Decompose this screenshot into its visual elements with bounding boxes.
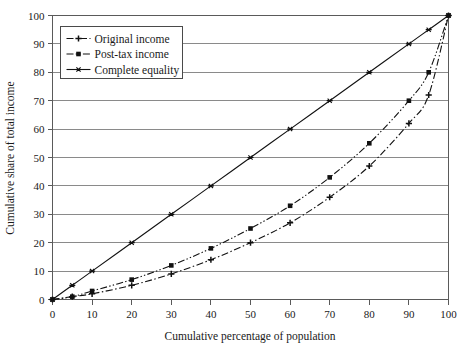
data-point-30: [169, 263, 174, 268]
y-tick-label-10: 10: [34, 265, 46, 277]
x-tick-label-90: 90: [403, 308, 415, 320]
data-point-10: [89, 269, 95, 273]
y-tick-label-0: 0: [39, 294, 45, 306]
x-tick-label-100: 100: [440, 308, 457, 320]
y-tick-label-40: 40: [34, 180, 46, 192]
x-tick-label-70: 70: [324, 308, 336, 320]
data-point-30: [168, 271, 174, 277]
data-point-80: [367, 141, 372, 146]
x-tick-label-20: 20: [126, 308, 138, 320]
legend-label: Post-tax income: [95, 48, 169, 60]
x-tick-label-80: 80: [364, 308, 376, 320]
y-axis-ticks: [48, 16, 53, 300]
y-tick-label-70: 70: [34, 95, 46, 107]
y-tick-label-100: 100: [28, 10, 45, 22]
y-tick-label-90: 90: [34, 38, 46, 50]
x-tick-label-10: 10: [87, 308, 99, 320]
data-point-60: [288, 203, 293, 208]
data-point-95: [426, 70, 431, 75]
x-tick-label-60: 60: [285, 308, 297, 320]
data-point-70: [327, 175, 332, 180]
y-tick-label-20: 20: [34, 237, 46, 249]
data-point-20: [129, 277, 134, 282]
data-point-90: [406, 42, 412, 46]
data-point-70: [327, 99, 333, 103]
data-point-50: [248, 226, 253, 231]
x-axis-tick-labels: 0102030405060708090100: [50, 308, 458, 320]
x-axis-ticks: [53, 300, 449, 305]
data-point-60: [287, 220, 293, 226]
legend-marker-1: [76, 52, 81, 57]
legend-label: Original income: [95, 33, 170, 46]
x-tick-label-40: 40: [205, 308, 217, 320]
legend-label: Complete equality: [95, 64, 180, 77]
lorenz-curve-figure: 0102030405060708090100 01020304050607080…: [0, 0, 467, 350]
data-point-5: [70, 294, 75, 299]
legend: Original incomePost-tax incomeComplete e…: [61, 27, 183, 79]
data-point-80: [366, 70, 372, 74]
y-tick-label-60: 60: [34, 123, 46, 135]
x-tick-label-50: 50: [245, 308, 257, 320]
x-tick-label-0: 0: [50, 308, 56, 320]
data-point-40: [208, 257, 214, 263]
x-tick-label-30: 30: [166, 308, 178, 320]
y-tick-label-50: 50: [34, 152, 46, 164]
data-point-40: [208, 184, 214, 188]
data-point-60: [287, 127, 293, 131]
data-point-40: [209, 246, 214, 251]
y-tick-label-80: 80: [34, 66, 46, 78]
y-tick-label-30: 30: [34, 208, 46, 220]
data-point-50: [248, 155, 254, 159]
data-point-30: [168, 212, 174, 216]
data-point-90: [407, 98, 412, 103]
data-point-20: [129, 241, 135, 245]
chart-canvas: 0102030405060708090100 01020304050607080…: [0, 0, 467, 350]
data-point-95: [426, 28, 432, 32]
data-point-20: [129, 282, 135, 288]
data-point-50: [247, 240, 253, 246]
data-point-5: [69, 283, 75, 287]
data-point-95: [426, 92, 432, 98]
x-axis-title: Cumulative percentage of population: [165, 330, 336, 343]
y-axis-tick-labels: 0102030405060708090100: [28, 10, 45, 306]
data-point-10: [90, 289, 95, 294]
y-axis-title: Cumulative share of total income: [4, 81, 16, 234]
